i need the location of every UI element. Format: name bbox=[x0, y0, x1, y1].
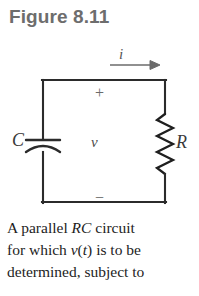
caption-line-1: A parallel RC circuit bbox=[7, 217, 197, 239]
figure-title: Figure 8.11 bbox=[9, 6, 109, 28]
current-arrow-icon bbox=[110, 61, 160, 70]
circuit-diagram bbox=[0, 34, 199, 214]
voltage-label: v bbox=[91, 135, 98, 150]
resistor-label: R bbox=[176, 133, 187, 151]
caption-line2-text-a: for which bbox=[7, 241, 71, 258]
resistor-symbol bbox=[157, 114, 173, 174]
figure-caption: A parallel RC circuit for which v(t) is … bbox=[7, 217, 197, 283]
figure-container: Figure 8.11 i C R v + − bbox=[0, 0, 199, 296]
caption-line-3: determined, subject to bbox=[7, 261, 197, 283]
caption-line2-italic-v: v bbox=[71, 241, 78, 258]
capacitor-label: C bbox=[12, 131, 24, 149]
caption-line1-text-b: circuit bbox=[91, 219, 134, 236]
capacitor-symbol bbox=[26, 140, 60, 152]
polarity-minus-label: − bbox=[95, 190, 104, 206]
polarity-plus-label: + bbox=[95, 85, 104, 101]
caption-line-2: for which v(t) is to be bbox=[7, 239, 197, 261]
current-label: i bbox=[119, 47, 123, 62]
caption-line1-italic-rc: RC bbox=[72, 219, 92, 236]
caption-line1-text-a: A parallel bbox=[7, 219, 72, 236]
caption-line2-text-b: is to be bbox=[92, 241, 141, 258]
